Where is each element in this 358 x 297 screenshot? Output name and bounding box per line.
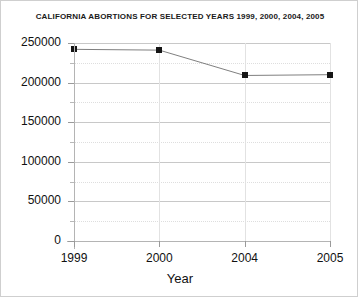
y-axis-minor-tick [70,63,74,64]
y-axis-minor-tick [70,182,74,183]
y-axis-minor-tick [70,102,74,103]
y-axis-minor-tick [70,221,74,222]
y-axis-tick-label: 0 [54,233,61,247]
x-axis-line [67,241,330,242]
x-axis-tick-label: 1999 [61,251,88,265]
y-axis-tick [68,122,74,123]
x-axis-tick-label: 2005 [317,251,344,265]
y-axis-tick-label: 100000 [21,154,61,168]
x-axis-tick [159,241,160,247]
y-axis-tick [68,162,74,163]
chart-title: CALIFORNIA ABORTIONS FOR SELECTED YEARS … [1,12,358,21]
y-axis-tick [68,201,74,202]
line-chart: CALIFORNIA ABORTIONS FOR SELECTED YEARS … [0,0,358,297]
x-axis-tick [245,241,246,247]
x-axis-tick-label: 2004 [231,251,258,265]
y-axis-tick-label: 250000 [21,35,61,49]
y-axis-tick-label: 200000 [21,75,61,89]
x-axis-title: Year [1,271,358,286]
x-axis-tick [330,241,331,247]
x-axis-tick [74,241,75,247]
y-axis-tick-label: 50000 [28,193,61,207]
y-axis-minor-tick [70,142,74,143]
data-point-marker [327,72,333,78]
data-point-marker [156,47,162,53]
y-axis-tick [68,83,74,84]
x-axis-tick-label: 2000 [146,251,173,265]
plot-area [74,43,330,241]
data-point-marker [242,72,248,78]
y-axis-tick-label: 150000 [21,114,61,128]
series-line [74,43,330,241]
y-axis-line [74,43,75,249]
y-axis-tick [68,43,74,44]
